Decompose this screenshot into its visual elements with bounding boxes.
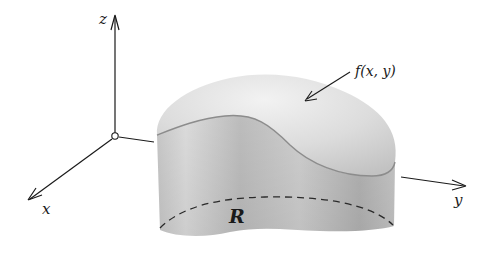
x-axis [28,139,112,200]
y-axis [401,177,466,190]
surface-label: f(x, y) [354,63,396,79]
diagram-canvas: z x R y f(x, y) [0,0,493,255]
x-axis-label: x [42,200,51,218]
z-axis-label: z [98,10,107,28]
y-axis-label: y [453,191,463,209]
origin-point [112,133,118,139]
region-label: R [228,205,245,227]
y-axis-hidden-segment [119,137,154,142]
z-axis [111,15,119,133]
